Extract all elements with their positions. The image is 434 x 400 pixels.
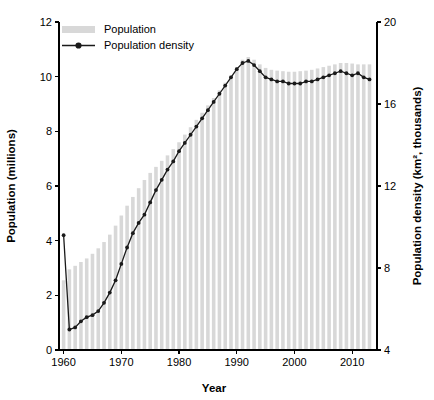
density-marker <box>96 309 100 313</box>
density-marker <box>143 213 147 217</box>
density-marker <box>339 69 343 73</box>
left-tick-label: 10 <box>40 71 52 83</box>
density-marker <box>62 233 66 237</box>
population-bar <box>327 66 331 350</box>
population-bar <box>247 57 251 350</box>
density-marker <box>73 326 77 330</box>
density-marker <box>269 78 273 82</box>
bottom-tick-label: 2000 <box>282 356 306 368</box>
left-tick-label: 0 <box>46 344 52 356</box>
density-marker <box>171 160 175 164</box>
density-marker <box>91 313 95 317</box>
density-marker <box>264 75 268 79</box>
population-bar <box>356 64 360 350</box>
bottom-tick-label: 1990 <box>225 356 249 368</box>
population-bar <box>212 98 216 350</box>
density-marker <box>229 75 233 79</box>
population-chart-figure: 024681012 196019701980199020002010 48121… <box>0 0 434 400</box>
density-marker <box>223 84 227 88</box>
population-bar <box>298 71 302 350</box>
population-bar <box>235 67 239 350</box>
right-axis-ticks: 48121620 <box>377 16 396 356</box>
population-bar <box>293 72 297 350</box>
density-marker <box>316 78 320 82</box>
density-marker <box>321 75 325 79</box>
population-bar <box>131 197 135 350</box>
population-bar <box>281 71 285 350</box>
population-bar <box>304 71 308 350</box>
density-marker <box>67 328 71 332</box>
population-bar <box>120 216 124 350</box>
population-bar <box>333 64 337 350</box>
population-bar <box>339 63 343 350</box>
right-tick-label: 4 <box>384 344 390 356</box>
population-bar <box>189 127 193 350</box>
density-marker <box>241 61 245 65</box>
density-marker <box>119 262 123 266</box>
population-bar <box>350 64 354 350</box>
density-marker <box>293 82 297 86</box>
density-marker <box>137 221 141 225</box>
density-marker <box>368 78 372 82</box>
density-marker <box>235 67 239 71</box>
density-marker <box>275 80 279 84</box>
population-bar <box>79 262 83 350</box>
chart-legend: Population Population density <box>62 23 194 51</box>
density-marker <box>252 63 256 67</box>
population-bar <box>125 206 129 350</box>
density-marker <box>102 301 106 305</box>
population-bar <box>183 135 187 350</box>
population-bar <box>62 280 66 350</box>
left-tick-label: 2 <box>46 289 52 301</box>
right-tick-label: 12 <box>384 180 396 192</box>
population-bar <box>264 68 268 350</box>
bottom-axis-ticks: 196019701980199020002010 <box>51 350 364 368</box>
y2-axis-title: Population density (km², thousands) <box>411 86 423 285</box>
density-marker <box>304 80 308 84</box>
density-marker <box>160 178 164 182</box>
population-bar <box>166 155 170 350</box>
population-bar <box>73 266 77 350</box>
density-marker <box>345 71 349 75</box>
bottom-tick-label: 1960 <box>51 356 75 368</box>
density-marker <box>298 82 302 86</box>
density-marker <box>258 69 262 73</box>
density-marker <box>281 80 285 84</box>
density-marker <box>85 315 89 319</box>
population-bar <box>195 120 199 350</box>
population-bars <box>62 57 371 350</box>
population-bar <box>229 75 233 350</box>
population-bar <box>322 67 326 350</box>
bottom-tick-label: 1980 <box>167 356 191 368</box>
population-bar <box>368 64 372 350</box>
density-marker <box>212 100 216 104</box>
density-marker <box>310 80 314 84</box>
population-bar <box>143 180 147 350</box>
population-bar <box>160 161 164 350</box>
population-bar <box>218 90 222 350</box>
bottom-tick-label: 2010 <box>340 356 364 368</box>
density-marker <box>350 73 354 77</box>
population-bar <box>362 64 366 350</box>
density-marker <box>108 291 112 295</box>
density-marker <box>287 82 291 86</box>
chart-canvas: 024681012 196019701980199020002010 48121… <box>0 0 434 400</box>
density-marker <box>200 116 204 120</box>
population-bar <box>85 258 89 350</box>
legend-label-population-density: Population density <box>104 39 194 51</box>
density-marker <box>194 125 198 129</box>
density-marker <box>333 71 337 75</box>
left-tick-label: 12 <box>40 16 52 28</box>
density-marker <box>183 141 187 145</box>
density-marker <box>218 92 222 96</box>
population-bar <box>275 71 279 350</box>
density-marker <box>362 75 366 79</box>
density-marker <box>79 319 83 323</box>
population-bar <box>258 64 262 350</box>
legend-swatch-population <box>62 26 95 33</box>
bottom-tick-label: 1970 <box>109 356 133 368</box>
left-tick-label: 4 <box>46 235 52 247</box>
population-bar <box>310 70 314 350</box>
population-bar <box>177 142 181 350</box>
y-axis-title: Population (millions) <box>5 129 17 243</box>
